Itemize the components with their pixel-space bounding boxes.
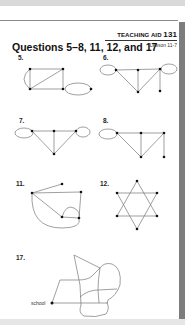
- school-label: school: [31, 300, 45, 306]
- question-17-map: [0, 0, 185, 325]
